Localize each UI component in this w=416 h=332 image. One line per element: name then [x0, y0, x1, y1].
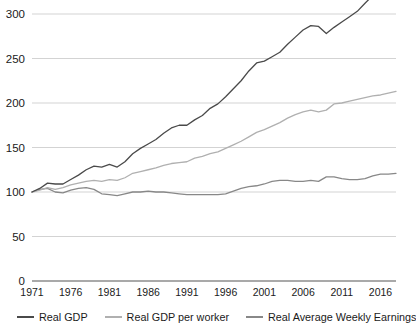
legend-item: Real Average Weekly Earnings — [246, 312, 416, 323]
legend-color-swatch — [17, 316, 34, 318]
legend-item: Real GDP per worker — [105, 312, 229, 323]
data-series-group — [32, 0, 396, 196]
y-axis-tick-label: 50 — [12, 231, 25, 243]
x-axis-tick-label: 1996 — [214, 286, 238, 298]
series-line — [32, 0, 396, 192]
x-axis-tick-label: 2006 — [291, 286, 315, 298]
y-axis-tick-label: 250 — [6, 53, 25, 65]
y-axis-tick-label: 150 — [6, 142, 25, 154]
x-axis-tick-label: 2001 — [253, 286, 277, 298]
legend-color-swatch — [105, 316, 122, 318]
legend-label: Real GDP — [39, 312, 88, 323]
chart-svg: 050100150200250300 197119761981198619911… — [0, 0, 405, 300]
legend-label: Real Average Weekly Earnings — [268, 312, 416, 323]
x-axis-tick-label: 2011 — [330, 286, 353, 298]
legend-item: Real GDP — [17, 312, 88, 323]
y-axis-tick-labels: 050100150200250300 — [6, 8, 25, 287]
legend-label: Real GDP per worker — [127, 312, 229, 323]
y-axis-tick-label: 100 — [6, 186, 25, 198]
x-axis-tick-labels: 1971197619811986199119962001200620112016 — [20, 286, 392, 298]
x-axis-tick-label: 1981 — [98, 286, 122, 298]
y-axis-tick-label: 200 — [6, 97, 25, 109]
y-axis-tick-label: 300 — [6, 8, 25, 20]
plot-area: 050100150200250300 197119761981198619911… — [0, 0, 405, 300]
x-axis-tick-label: 1971 — [20, 286, 44, 298]
x-axis-tick-label: 1986 — [136, 286, 160, 298]
legend-color-swatch — [246, 316, 263, 318]
chart-legend: Real GDPReal GDP per workerReal Average … — [0, 303, 405, 332]
gridlines — [32, 14, 396, 281]
x-axis-tick-label: 1976 — [59, 286, 83, 298]
x-axis-tick-label: 2016 — [369, 286, 393, 298]
x-axis-tick-label: 1991 — [175, 286, 199, 298]
